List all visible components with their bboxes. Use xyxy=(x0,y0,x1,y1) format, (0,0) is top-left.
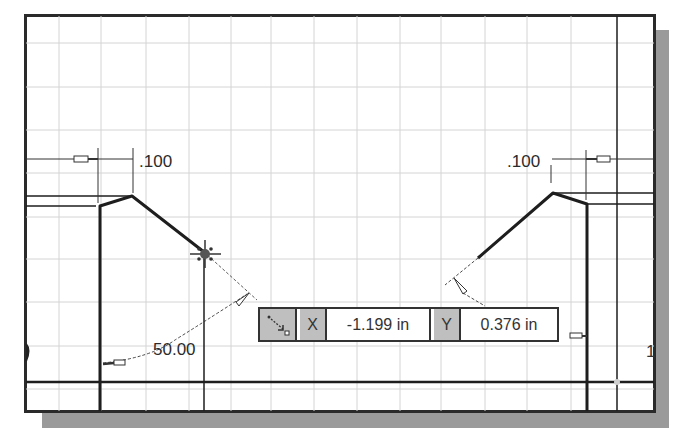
x-label: X xyxy=(297,309,327,340)
sketch-graphics[interactable]: .100 .100 50.00 xyxy=(0,0,685,441)
reference-lines xyxy=(26,16,654,411)
grid xyxy=(26,16,654,411)
precise-input-icon xyxy=(265,313,291,337)
precise-input-toggle-button[interactable] xyxy=(260,309,297,340)
x-coordinate-input[interactable]: -1.199 in xyxy=(327,309,431,340)
left-profile[interactable] xyxy=(26,196,204,411)
left-offset-label[interactable]: .100 xyxy=(139,152,172,171)
sketch-viewport: .100 .100 50.00 xyxy=(0,0,685,441)
coordinate-input-box: X -1.199 in Y 0.376 in xyxy=(258,307,559,342)
origin-point[interactable] xyxy=(614,379,620,385)
angle-label[interactable]: 50.00 xyxy=(153,340,196,359)
left-offset-dimension[interactable] xyxy=(26,148,133,203)
edge-marker xyxy=(26,344,29,361)
y-coordinate-input[interactable]: 0.376 in xyxy=(461,309,557,340)
sheet-marker-label: 1 xyxy=(646,342,655,362)
right-offset-label[interactable]: .100 xyxy=(507,152,540,171)
drawing-frame xyxy=(25,15,655,412)
y-label: Y xyxy=(431,309,461,340)
